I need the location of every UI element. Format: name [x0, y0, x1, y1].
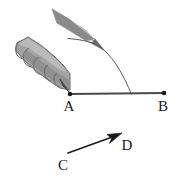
- figure-background: [0, 0, 184, 178]
- point-a-dot: [68, 92, 73, 97]
- ray-a-b: [70, 93, 164, 94]
- geometry-figure: A B C D: [0, 0, 184, 178]
- point-label-b: B: [158, 98, 168, 114]
- point-label-c: C: [58, 157, 68, 173]
- point-b-dot: [162, 91, 167, 96]
- point-label-d: D: [122, 137, 133, 153]
- point-label-a: A: [64, 98, 75, 114]
- figure-canvas: A B C D: [0, 0, 184, 178]
